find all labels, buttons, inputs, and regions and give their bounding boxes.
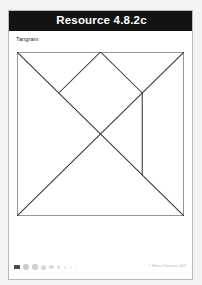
page-badge-icon [14,265,20,270]
page-footer: © Nelson Education 2008 [9,260,192,276]
progress-dot-2 [32,264,37,269]
resource-header-band: Resource 4.8.2c [8,10,193,31]
progress-dot-6 [64,266,67,269]
progress-dot-3 [41,265,46,270]
progress-dot-5 [57,265,61,269]
progress-dot-4 [49,265,53,269]
footer-indicator-row [14,264,77,270]
worksheet-page: Resource 4.8.2c Tangram © Nelson Educati… [8,10,193,280]
footer-credit-text: © Nelson Education 2008 [149,265,186,268]
tangram-svg [17,52,184,216]
progress-dot-7 [70,266,72,268]
section-label: Tangram [16,37,38,43]
progress-dot-1 [23,264,29,270]
page-title: Resource 4.8.2c [56,15,147,27]
progress-dot-8 [75,266,77,268]
tangram-figure [17,52,184,216]
